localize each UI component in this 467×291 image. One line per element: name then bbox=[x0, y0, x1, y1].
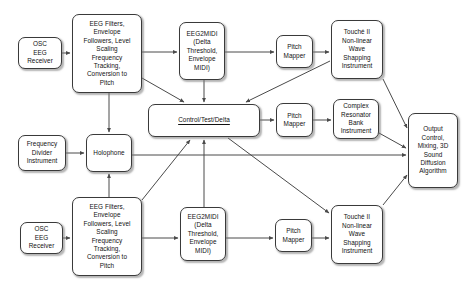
node-label-holophone: Holophone bbox=[91, 149, 126, 157]
edge-eeg-filters-bottom-to-control-test-delta bbox=[142, 140, 190, 200]
node-pitch-mapper-top[interactable]: Pitch Mapper bbox=[276, 35, 313, 68]
edge-touche-bottom-to-output-control bbox=[383, 175, 407, 205]
node-pitch-mapper-bottom[interactable]: Pitch Mapper bbox=[275, 219, 312, 252]
node-label-touche-top: Touché II Non-linear Wave Shapping Instr… bbox=[340, 28, 375, 70]
node-pitch-mapper-middle[interactable]: Pitch Mapper bbox=[276, 103, 313, 137]
node-label-frequency-divider-instrument: Frequency Divider Instrument bbox=[25, 140, 60, 165]
node-control-test-delta[interactable]: Control/Test/Delta bbox=[148, 104, 260, 137]
node-label-eeg-filters-bottom: EEG Filters, Envelope Followers, Level S… bbox=[82, 203, 133, 271]
node-label-eeg-filters-top: EEG Filters, Envelope Followers, Level S… bbox=[82, 20, 133, 88]
node-label-output-control: Output Control, Mixing, 3D Sound Diffusi… bbox=[416, 125, 451, 176]
node-label-pitch-mapper-top: Pitch Mapper bbox=[282, 43, 308, 60]
node-label-eeg2midi-bottom: EEG2MIDI (Delta Threshold, Envelope MIDI… bbox=[186, 213, 221, 255]
node-frequency-divider-instrument[interactable]: Frequency Divider Instrument bbox=[18, 135, 66, 171]
node-label-pitch-mapper-middle: Pitch Mapper bbox=[282, 112, 308, 129]
node-eeg-filters-bottom[interactable]: EEG Filters, Envelope Followers, Level S… bbox=[72, 197, 142, 276]
node-label-osc-eeg-receiver-top: OSC EEG Receiver bbox=[25, 40, 55, 65]
node-output-control[interactable]: Output Control, Mixing, 3D Sound Diffusi… bbox=[408, 113, 458, 188]
edge-touche-top-to-output-control bbox=[383, 79, 407, 128]
node-eeg2midi-bottom[interactable]: EEG2MIDI (Delta Threshold, Envelope MIDI… bbox=[180, 207, 226, 261]
node-eeg2midi-top[interactable]: EEG2MIDI (Delta Threshold, Envelope MIDI… bbox=[179, 22, 225, 80]
node-eeg-filters-top[interactable]: EEG Filters, Envelope Followers, Level S… bbox=[72, 14, 142, 93]
node-label-pitch-mapper-bottom: Pitch Mapper bbox=[281, 227, 307, 244]
node-osc-eeg-receiver-bottom[interactable]: OSC EEG Receiver bbox=[20, 222, 63, 254]
node-osc-eeg-receiver-top[interactable]: OSC EEG Receiver bbox=[18, 37, 62, 69]
edge-complex-resonator-bank-to-output-control bbox=[379, 133, 406, 148]
edge-eeg-filters-top-to-control-test-delta bbox=[142, 78, 184, 102]
node-label-complex-resonator-bank: Complex Resonator Bank Instrument bbox=[339, 102, 374, 136]
diagram-edges-layer bbox=[0, 0, 467, 291]
node-touche-top[interactable]: Touché II Non-linear Wave Shapping Instr… bbox=[331, 20, 383, 79]
node-touche-bottom[interactable]: Touché II Non-linear Wave Shapping Instr… bbox=[331, 205, 383, 264]
edge-control-test-delta-to-touche-bottom bbox=[228, 138, 329, 213]
node-label-control-test-delta: Control/Test/Delta bbox=[176, 116, 232, 124]
node-holophone[interactable]: Holophone bbox=[86, 134, 132, 172]
node-label-osc-eeg-receiver-bottom: OSC EEG Receiver bbox=[27, 225, 57, 250]
node-label-touche-bottom: Touché II Non-linear Wave Shapping Instr… bbox=[340, 213, 375, 255]
diagram-canvas: OSC EEG ReceiverEEG Filters, Envelope Fo… bbox=[0, 0, 467, 291]
node-label-eeg2midi-top: EEG2MIDI (Delta Threshold, Envelope MIDI… bbox=[185, 30, 220, 72]
node-complex-resonator-bank[interactable]: Complex Resonator Bank Instrument bbox=[333, 99, 379, 139]
